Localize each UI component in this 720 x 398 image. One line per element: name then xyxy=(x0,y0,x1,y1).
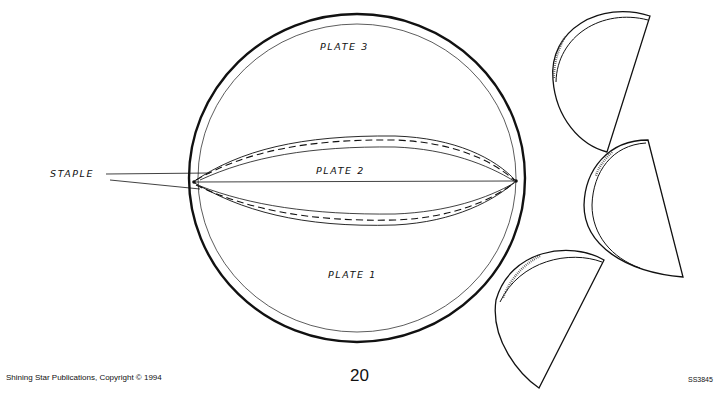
plate-1-label: PLATE 1 xyxy=(328,269,377,280)
lens-lower-outer xyxy=(193,181,516,225)
half-plate-bottom xyxy=(495,250,604,388)
plate-assembly-diagram: STAPLE PLATE 3 PLATE 2 PLATE 1 xyxy=(0,0,720,398)
half-plate-top-outline xyxy=(553,12,650,152)
staple-leader-line-upper xyxy=(106,173,210,174)
plate-2-label: PLATE 2 xyxy=(316,165,365,176)
staple-label: STAPLE xyxy=(50,168,94,179)
half-plate-middle-outline xyxy=(584,140,683,277)
staple-left xyxy=(192,180,196,184)
half-plate-bottom-outline xyxy=(495,250,604,388)
plate-2-lens xyxy=(192,136,518,225)
lens-lower-dashed xyxy=(196,183,514,220)
page-number: 20 xyxy=(350,366,369,386)
lens-lower-inner xyxy=(200,183,514,214)
plate-inner-rim xyxy=(198,24,516,332)
product-code: SS3845 xyxy=(688,376,713,383)
staple-right xyxy=(514,179,518,183)
large-plate xyxy=(189,14,525,342)
half-plate-middle xyxy=(584,140,683,277)
half-plate-top xyxy=(553,12,650,152)
staple-leader-line-lower xyxy=(110,180,200,189)
plate-outer-rim xyxy=(189,14,525,342)
lens-center-line xyxy=(193,181,516,182)
plate-3-label: PLATE 3 xyxy=(320,41,369,52)
publisher-credit: Shining Star Publications, Copyright © 1… xyxy=(6,373,162,382)
